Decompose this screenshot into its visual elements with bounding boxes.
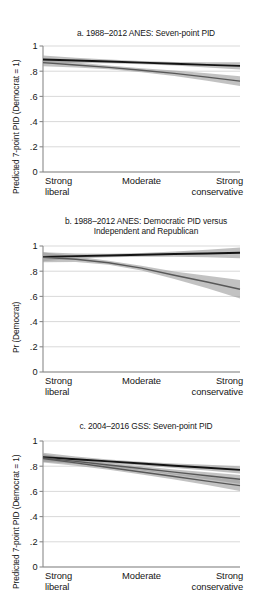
chart-panel-b: b. 1988–2012 ANES: Democratic PID versus… <box>0 198 272 395</box>
y-tick-label: .6 <box>30 92 38 102</box>
x-category-label: Moderate <box>122 375 161 386</box>
x-category-label: Strong <box>45 375 72 386</box>
y-tick-label: .6 <box>30 487 38 497</box>
y-tick-label: .4 <box>30 317 38 327</box>
y-tick-label: 1 <box>32 241 37 251</box>
y-tick-label: 1 <box>32 436 37 446</box>
y-tick-label: .2 <box>30 342 38 352</box>
x-category-label: liberal <box>45 581 69 591</box>
x-category-label: Moderate <box>122 175 161 186</box>
y-tick-label: 0 <box>32 562 37 572</box>
panel-c-plot-area: 0.2.4.6.81StrongliberalModerateStrongcon… <box>0 393 272 590</box>
x-category-label: Moderate <box>122 570 161 581</box>
y-tick-label: .4 <box>30 512 38 522</box>
y-tick-label: .6 <box>30 292 38 302</box>
chart-panel-c: c. 2004–2016 GSS: Seven-point PID Predic… <box>0 393 272 590</box>
x-category-label: Strong <box>216 175 243 186</box>
y-tick-label: .8 <box>30 267 38 277</box>
y-tick-label: 0 <box>32 167 37 177</box>
y-tick-label: .4 <box>30 117 38 127</box>
x-category-label: Strong <box>45 175 72 186</box>
y-tick-label: 0 <box>32 367 37 377</box>
x-category-label: liberal <box>45 186 69 197</box>
x-category-label: Strong <box>216 375 243 386</box>
panel-a-plot-area: 0.2.4.6.81StrongliberalModerateStrongcon… <box>0 0 272 197</box>
x-category-label: conservative <box>192 581 243 591</box>
x-category-label: conservative <box>192 186 243 197</box>
y-tick-label: .8 <box>30 462 38 472</box>
x-category-label: Strong <box>45 570 72 581</box>
y-tick-label: 1 <box>32 41 37 51</box>
x-category-label: Strong <box>216 570 243 581</box>
y-tick-label: .8 <box>30 67 38 77</box>
y-tick-label: .2 <box>30 537 38 547</box>
chart-panel-a: a. 1988–2012 ANES: Seven-point PID Predi… <box>0 0 272 197</box>
panel-b-plot-area: 0.2.4.6.81StrongliberalModerateStrongcon… <box>0 198 272 395</box>
figure-three-panel-pid-chart: a. 1988–2012 ANES: Seven-point PID Predi… <box>0 0 272 592</box>
y-tick-label: .2 <box>30 142 38 152</box>
